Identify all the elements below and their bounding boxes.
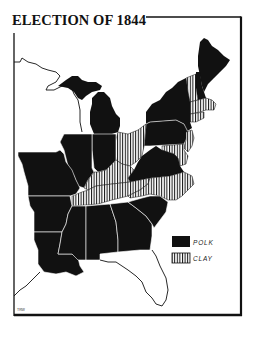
election-map	[0, 0, 259, 339]
wisconsin-territory-outline	[14, 58, 82, 132]
state-michigan-lower	[90, 92, 120, 134]
artist-credit: TRW	[17, 308, 25, 312]
state-pennsylvania	[144, 120, 188, 146]
state-maine	[198, 38, 230, 92]
legend-swatch-polk	[172, 236, 190, 247]
gulf-coast-west	[14, 272, 40, 296]
state-florida-outline	[100, 250, 168, 306]
legend-label-polk: POLK	[193, 239, 214, 246]
legend	[172, 236, 190, 263]
legend-swatch-clay	[172, 253, 190, 263]
legend-label-clay: CLAY	[193, 255, 213, 262]
state-connecticut	[190, 112, 204, 122]
